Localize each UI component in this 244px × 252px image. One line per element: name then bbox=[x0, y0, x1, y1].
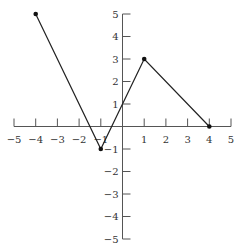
y-tick-label: 3 bbox=[112, 54, 118, 65]
y-tick-label: 5 bbox=[112, 9, 118, 20]
data-point bbox=[142, 57, 147, 62]
y-tick-label: −4 bbox=[104, 211, 119, 222]
x-tick-label: −4 bbox=[28, 134, 43, 145]
x-tick-label: 1 bbox=[141, 134, 147, 145]
y-tick-label: 4 bbox=[112, 31, 118, 42]
x-tick-label: −5 bbox=[7, 134, 22, 145]
y-tick-label: −3 bbox=[104, 189, 119, 200]
data-point bbox=[99, 147, 104, 152]
coordinate-plane: −5−4−3−2−112345−5−4−3−2−112345 bbox=[0, 0, 244, 252]
data-point bbox=[33, 12, 38, 17]
y-tick-label: 1 bbox=[112, 99, 118, 110]
data-point bbox=[207, 124, 212, 129]
x-tick-label: −2 bbox=[72, 134, 87, 145]
axes bbox=[14, 14, 231, 239]
y-tick-label: −2 bbox=[104, 166, 119, 177]
x-tick-label: 5 bbox=[228, 134, 234, 145]
x-tick-label: −3 bbox=[50, 134, 65, 145]
y-tick-label: −1 bbox=[104, 144, 119, 155]
x-tick-label: 2 bbox=[163, 134, 169, 145]
x-tick-label: 3 bbox=[184, 134, 190, 145]
y-tick-label: 2 bbox=[112, 76, 118, 87]
y-tick-label: −5 bbox=[104, 234, 119, 245]
x-tick-label: 4 bbox=[206, 134, 212, 145]
